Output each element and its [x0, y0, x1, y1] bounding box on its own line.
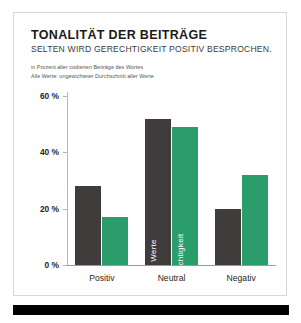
y-axis-tick-mark: [63, 265, 67, 266]
bar-neutral-alle-werte: Alle Werte: [145, 119, 171, 265]
bar-positiv-gerechtigkeit: [102, 217, 128, 265]
y-axis-tick-label: 0 %: [19, 260, 59, 270]
chart-card: TONALITÄT DER BEITRÄGE SELTEN WIRD GEREC…: [13, 12, 287, 296]
x-axis-category-label: Neutral: [158, 273, 186, 283]
series-label-alle-werte: Alle Werte: [149, 239, 158, 265]
y-axis-line: [67, 92, 68, 265]
y-axis-tick-label: 40 %: [19, 147, 59, 157]
bar-chart-plot: 0 %20 %40 %60 %PositivAlle WerteGerechti…: [14, 13, 288, 297]
x-axis-line: [67, 265, 276, 266]
x-axis-category-label: Negativ: [227, 273, 256, 283]
series-label-gerechtigkeit: Gerechtigkeit: [176, 233, 185, 265]
y-axis-tick-mark: [63, 152, 67, 153]
bottom-accent-bar: [13, 305, 289, 315]
bar-negativ-gerechtigkeit: [242, 175, 268, 265]
bar-positiv-alle-werte: [75, 186, 101, 265]
bar-neutral-gerechtigkeit: Gerechtigkeit: [172, 127, 198, 265]
bar-negativ-alle-werte: [215, 209, 241, 265]
y-axis-tick-mark: [63, 209, 67, 210]
y-axis-tick-mark: [63, 96, 67, 97]
y-axis-tick-label: 60 %: [19, 91, 59, 101]
y-axis-tick-label: 20 %: [19, 204, 59, 214]
x-axis-category-label: Positiv: [89, 273, 114, 283]
